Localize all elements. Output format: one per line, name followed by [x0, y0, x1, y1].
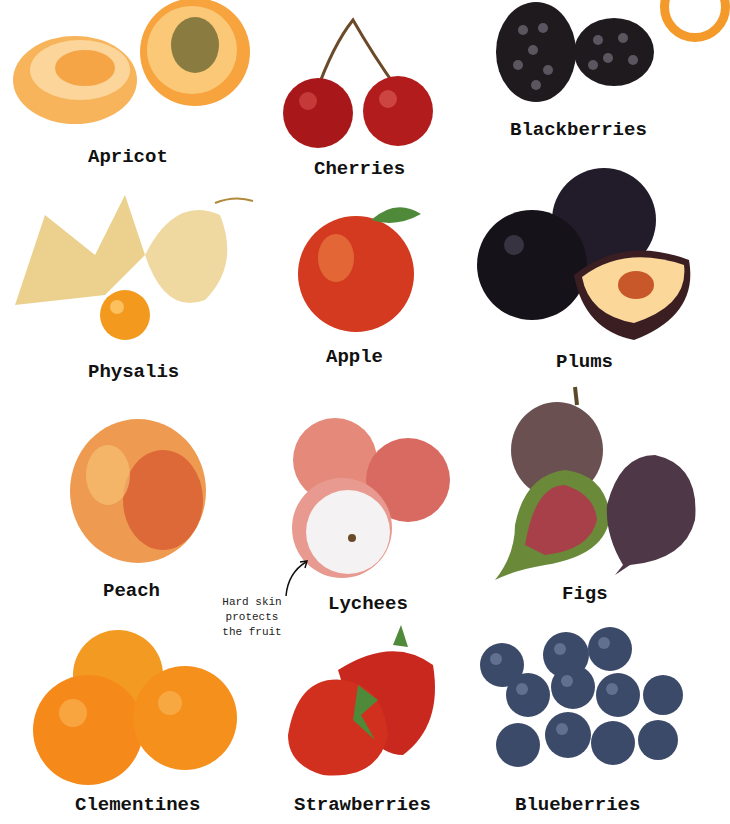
label-blueberries: Blueberries	[515, 794, 640, 816]
figs-image	[495, 385, 705, 585]
annotation-line-1: Hard skin	[212, 595, 292, 610]
label-strawberries: Strawberries	[294, 794, 431, 816]
peach-image	[68, 415, 213, 565]
label-plums: Plums	[556, 351, 613, 373]
label-figs: Figs	[562, 583, 608, 605]
blueberries-image	[478, 625, 688, 775]
label-apple: Apple	[326, 346, 383, 368]
label-peach: Peach	[103, 580, 160, 602]
label-physalis: Physalis	[88, 361, 179, 383]
corner-badge-decoration	[660, 0, 730, 42]
apple-image	[296, 198, 436, 338]
apricot-image	[10, 0, 250, 130]
annotation-arrow-icon	[282, 558, 312, 598]
annotation-line-2: protects	[212, 610, 292, 625]
label-lychees: Lychees	[328, 593, 408, 615]
cherries-image	[278, 15, 438, 145]
clementines-image	[35, 628, 245, 788]
label-cherries: Cherries	[314, 158, 405, 180]
plums-image	[474, 165, 708, 350]
strawberries-image	[283, 625, 443, 785]
lychees-image	[290, 420, 455, 580]
label-blackberries: Blackberries	[510, 119, 647, 141]
label-apricot: Apricot	[88, 146, 168, 168]
physalis-image	[5, 195, 255, 345]
blackberries-image	[488, 0, 668, 110]
label-clementines: Clementines	[75, 794, 200, 816]
